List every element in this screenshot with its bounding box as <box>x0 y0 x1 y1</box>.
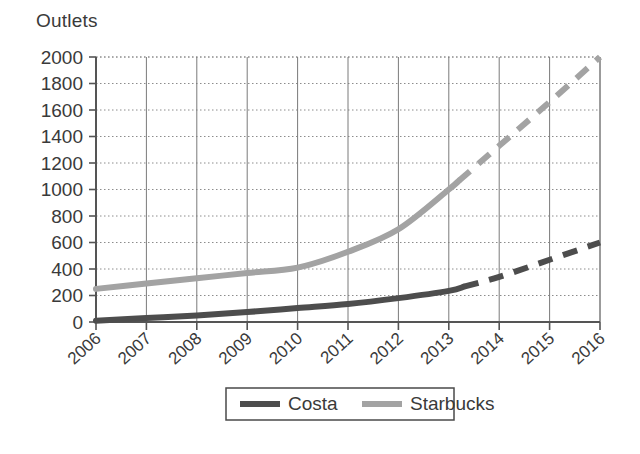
x-axis-tick-label: 2009 <box>215 329 256 368</box>
legend-label-starbucks: Starbucks <box>410 393 494 414</box>
x-axis-tick-label: 2016 <box>568 329 609 368</box>
y-axis-tick-label: 1400 <box>41 126 83 147</box>
y-axis-tick-label: 800 <box>51 206 83 227</box>
series-line-starbucks-projected <box>459 57 600 181</box>
series-line-costa-projected <box>464 243 600 287</box>
chart-plot: 0200400600800100012001400160018002000 20… <box>0 0 640 454</box>
x-axis-tick-label: 2006 <box>64 329 105 368</box>
y-axis-ticks <box>89 57 96 322</box>
series-line-costa-actual <box>96 287 464 321</box>
y-axis-tick-label: 1000 <box>41 179 83 200</box>
x-axis-tick-label: 2010 <box>265 329 306 368</box>
y-axis-tick-label: 400 <box>51 259 83 280</box>
y-axis-tick-label: 200 <box>51 285 83 306</box>
y-axis-tick-label: 0 <box>72 312 83 333</box>
y-axis-tick-labels: 0200400600800100012001400160018002000 <box>41 47 83 333</box>
x-axis-tick-label: 2011 <box>317 329 357 368</box>
y-axis-tick-label: 2000 <box>41 47 83 68</box>
legend: CostaStarbucks <box>226 388 494 420</box>
x-axis-tick-label: 2012 <box>366 329 407 368</box>
y-axis-tick-label: 600 <box>51 232 83 253</box>
series-line-starbucks-actual <box>96 181 459 289</box>
y-axis-tick-label: 1200 <box>41 153 83 174</box>
x-axis-tick-label: 2013 <box>417 329 458 368</box>
x-axis-tick-label: 2007 <box>114 329 155 368</box>
y-axis-tick-label: 1600 <box>41 100 83 121</box>
chart-container: Outlets 02004006008001000120014001600180… <box>0 0 640 454</box>
legend-label-costa: Costa <box>288 393 338 414</box>
y-axis-tick-label: 1800 <box>41 73 83 94</box>
x-axis-tick-labels: 2006200720082009201020112012201320142015… <box>64 329 609 368</box>
x-axis-tick-label: 2015 <box>517 329 558 368</box>
x-axis-tick-label: 2014 <box>467 329 508 368</box>
x-axis-tick-label: 2008 <box>165 329 206 368</box>
x-axis-ticks <box>96 322 600 330</box>
